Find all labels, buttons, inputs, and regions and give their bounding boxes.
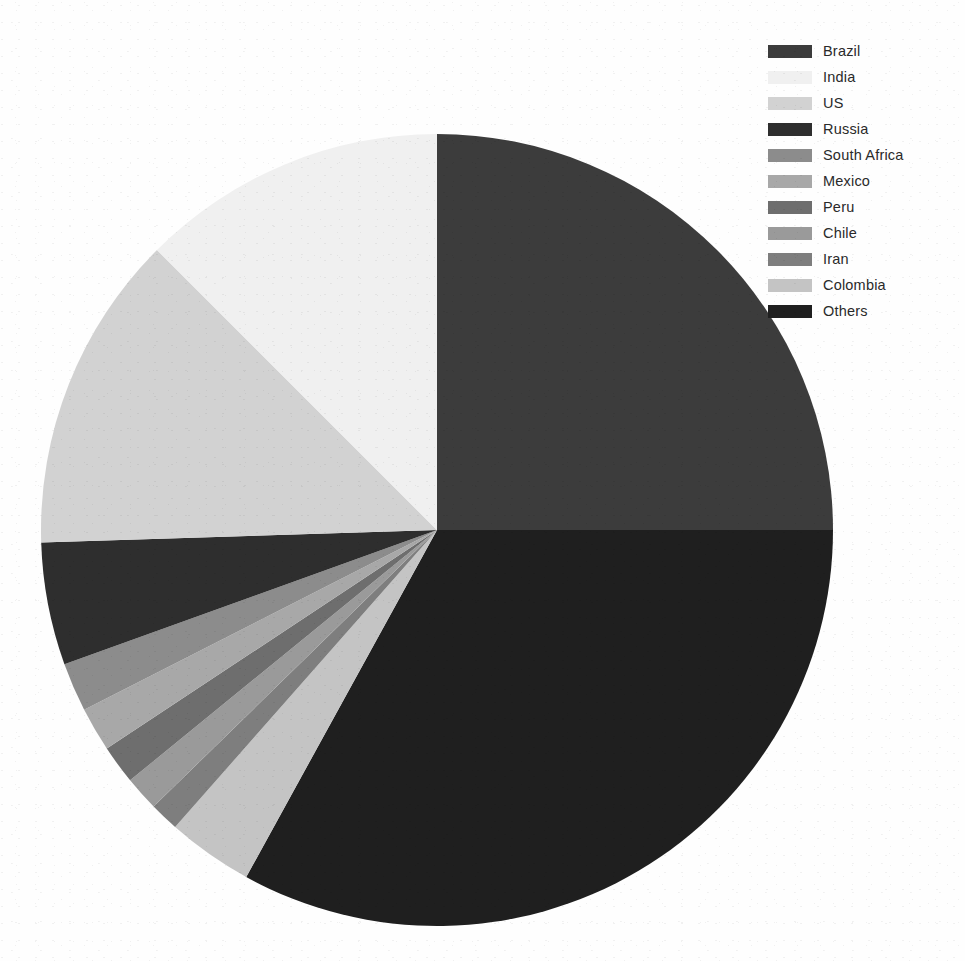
pie-slice-group [41, 134, 833, 926]
legend-swatch-icon [768, 227, 812, 240]
legend-item-label: Chile [823, 220, 857, 246]
legend-item-label: South Africa [823, 142, 904, 168]
legend-item-label: US [823, 90, 844, 116]
pie-chart-figure: BrazilIndiaUSRussiaSouth AfricaMexicoPer… [0, 0, 965, 961]
legend-swatch-icon [768, 45, 812, 58]
legend-item-label: India [823, 64, 855, 90]
chart-legend: BrazilIndiaUSRussiaSouth AfricaMexicoPer… [768, 38, 958, 324]
legend-swatch-icon [768, 279, 812, 292]
legend-swatch-icon [768, 71, 812, 84]
legend-item-label: Iran [823, 246, 849, 272]
legend-swatch-icon [768, 97, 812, 110]
legend-swatch-icon [768, 149, 812, 162]
legend-item-brazil[interactable]: Brazil [768, 38, 958, 64]
legend-item-others[interactable]: Others [768, 298, 958, 324]
legend-item-russia[interactable]: Russia [768, 116, 958, 142]
legend-swatch-icon [768, 123, 812, 136]
legend-swatch-icon [768, 305, 812, 318]
legend-item-label: Peru [823, 194, 854, 220]
legend-item-chile[interactable]: Chile [768, 220, 958, 246]
legend-item-label: Mexico [823, 168, 870, 194]
legend-item-south-africa[interactable]: South Africa [768, 142, 958, 168]
legend-item-us[interactable]: US [768, 90, 958, 116]
legend-item-india[interactable]: India [768, 64, 958, 90]
legend-item-label: Others [823, 298, 868, 324]
legend-swatch-icon [768, 253, 812, 266]
legend-item-label: Brazil [823, 38, 860, 64]
legend-item-label: Russia [823, 116, 869, 142]
legend-item-colombia[interactable]: Colombia [768, 272, 958, 298]
legend-item-mexico[interactable]: Mexico [768, 168, 958, 194]
legend-swatch-icon [768, 201, 812, 214]
legend-item-peru[interactable]: Peru [768, 194, 958, 220]
legend-item-label: Colombia [823, 272, 886, 298]
legend-item-iran[interactable]: Iran [768, 246, 958, 272]
legend-swatch-icon [768, 175, 812, 188]
